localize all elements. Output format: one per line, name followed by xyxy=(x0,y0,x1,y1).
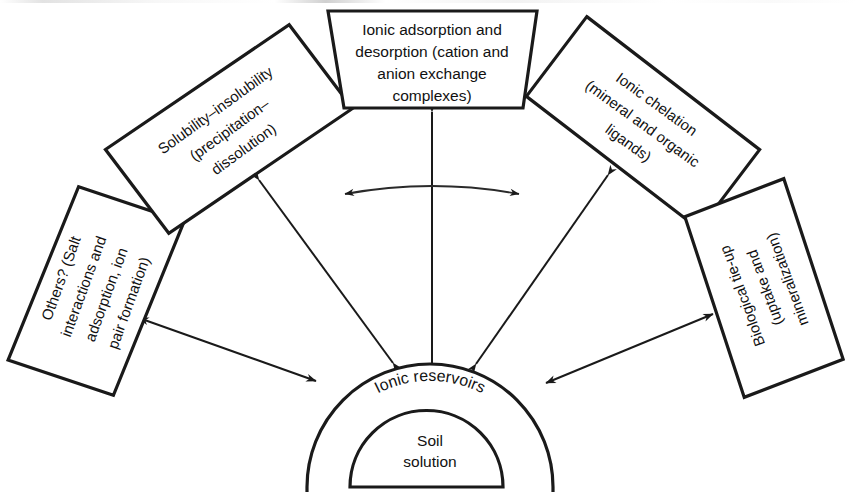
diagram-svg: Ionic reservoirs Soil solution Others? (… xyxy=(0,0,857,502)
biological-tie-up-box[interactable]: Biological tie-up (uptake and mineraliza… xyxy=(679,179,850,398)
connector-chelation-to-reservoir[interactable] xyxy=(476,175,608,364)
ionic-adsorption-desorption-box[interactable]: Ionic adsorption and desorption (cation … xyxy=(328,11,537,108)
adsorption-box-line-3: anion exchange xyxy=(377,65,486,82)
soil-solution-label-line2: solution xyxy=(403,453,456,470)
figure-canvas: Ionic reservoirs Soil solution Others? (… xyxy=(0,0,857,502)
adsorption-box-line-4: complexes) xyxy=(392,87,471,104)
connector-others-to-reservoir[interactable] xyxy=(139,318,316,381)
soil-solution-label-line1: Soil xyxy=(417,432,443,449)
ionic-chelation-box[interactable]: Ionic chelation (mineral and organic lig… xyxy=(523,15,763,230)
adsorption-box-line-1: Ionic adsorption and xyxy=(362,21,502,38)
ionic-reservoir-group[interactable]: Ionic reservoirs Soil solution xyxy=(307,364,553,492)
adsorption-box-line-2: desorption (cation and xyxy=(355,43,508,60)
connector-solubility-to-reservoir[interactable] xyxy=(259,180,393,363)
connector-biological-to-reservoir[interactable] xyxy=(546,314,713,383)
